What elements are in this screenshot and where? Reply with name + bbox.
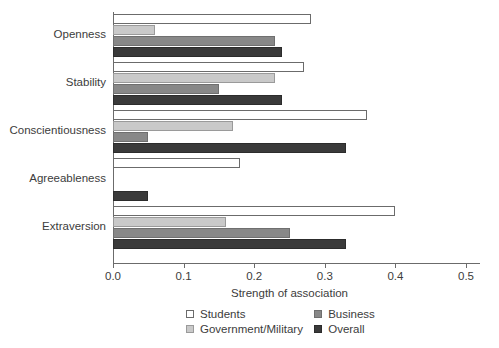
bar bbox=[113, 110, 367, 120]
category-label-extraversion: Extraversion bbox=[0, 220, 106, 232]
x-tick-label: 0.2 bbox=[234, 270, 274, 282]
bar bbox=[113, 217, 226, 227]
bar bbox=[113, 62, 304, 72]
legend-item-government-military[interactable]: Government/Military bbox=[186, 321, 311, 336]
bar bbox=[113, 143, 346, 153]
bar bbox=[113, 132, 148, 142]
x-tick-mark bbox=[466, 264, 467, 268]
bar bbox=[113, 158, 240, 168]
category-label-agreeableness: Agreeableness bbox=[0, 172, 106, 184]
legend-swatch-business-icon bbox=[314, 310, 322, 318]
x-tick-label: 0.3 bbox=[305, 270, 345, 282]
x-tick-label: 0.1 bbox=[164, 270, 204, 282]
legend-label-overall: Overall bbox=[328, 323, 364, 335]
x-tick-mark bbox=[254, 264, 255, 268]
x-tick-mark bbox=[325, 264, 326, 268]
legend-label-business: Business bbox=[328, 308, 375, 320]
bar bbox=[113, 228, 290, 238]
legend-column-right: Business Overall bbox=[314, 306, 375, 336]
bar bbox=[113, 36, 275, 46]
x-tick-label: 0.4 bbox=[375, 270, 415, 282]
bar bbox=[113, 206, 395, 216]
bar-chart: OpennessStabilityConscientiousnessAgreea… bbox=[0, 0, 499, 348]
x-tick-mark bbox=[184, 264, 185, 268]
legend-label-government-military: Government/Military bbox=[200, 323, 303, 335]
category-label-conscientiousness: Conscientiousness bbox=[0, 124, 106, 136]
category-label-stability: Stability bbox=[0, 76, 106, 88]
x-tick-label: 0.5 bbox=[446, 270, 486, 282]
bar bbox=[113, 73, 275, 83]
legend-item-business[interactable]: Business bbox=[314, 306, 375, 321]
category-label-openness: Openness bbox=[0, 28, 106, 40]
legend-column-left: Students Government/Military bbox=[186, 306, 311, 336]
bar bbox=[113, 47, 282, 57]
bar bbox=[113, 95, 282, 105]
bar bbox=[113, 121, 233, 131]
x-axis-line bbox=[113, 263, 480, 264]
bar bbox=[113, 14, 311, 24]
legend-swatch-students-icon bbox=[186, 310, 194, 318]
chart-legend: Students Government/Military Business Ov… bbox=[186, 306, 375, 336]
legend-swatch-overall-icon bbox=[314, 325, 322, 333]
x-tick-mark bbox=[395, 264, 396, 268]
x-tick-mark bbox=[113, 264, 114, 268]
legend-label-students: Students bbox=[200, 308, 245, 320]
legend-item-overall[interactable]: Overall bbox=[314, 321, 375, 336]
bar bbox=[113, 191, 148, 201]
bar bbox=[113, 84, 219, 94]
bar bbox=[113, 25, 155, 35]
legend-swatch-government-military-icon bbox=[186, 325, 194, 333]
bar bbox=[113, 239, 346, 249]
x-tick-label: 0.0 bbox=[93, 270, 133, 282]
x-axis-title: Strength of association bbox=[113, 287, 466, 299]
legend-item-students[interactable]: Students bbox=[186, 306, 311, 321]
